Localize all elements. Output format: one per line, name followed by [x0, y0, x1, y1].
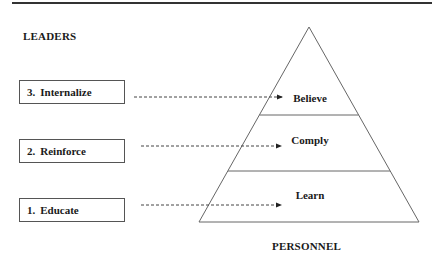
pyramid-level-believe: Believe	[293, 92, 327, 104]
personnel-label: PERSONNEL	[272, 240, 341, 252]
pyramid-diagram	[0, 0, 437, 256]
pyramid-level-comply: Comply	[291, 134, 328, 146]
pyramid-level-learn: Learn	[296, 189, 325, 201]
